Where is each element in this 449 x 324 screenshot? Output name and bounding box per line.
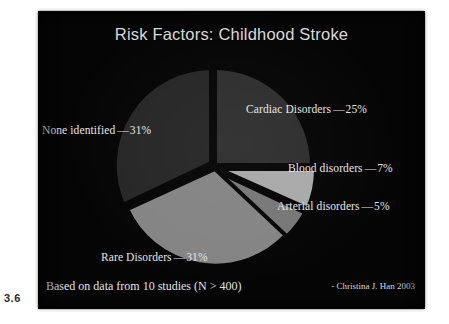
pie-label-cardiac-percent: 25% [346, 103, 367, 115]
pie-label-arterial-name: Arterial disorders [277, 200, 360, 212]
page-title: Risk Factors: Childhood Stroke [38, 25, 425, 44]
pie-label-blood-dash: — [363, 162, 378, 174]
pie-label-none-name: None identified [42, 124, 115, 136]
pie-label-cardiac: Cardiac Disorders—25% [246, 103, 367, 115]
pie-label-none-dash: — [115, 124, 130, 136]
pie-label-rare: Rare Disorders—31% [101, 251, 208, 263]
pie-label-none-percent: 31% [130, 124, 151, 136]
pie-label-cardiac-dash: — [331, 103, 346, 115]
figure-number: 3.6 [4, 292, 21, 304]
pie-label-arterial-percent: 5% [374, 200, 390, 212]
pie-label-blood: Blood disorders—7% [288, 162, 393, 174]
pie-label-rare-dash: — [172, 251, 187, 263]
presentation-slide: Risk Factors: Childhood Stroke Cardiac D… [38, 11, 425, 309]
pie-label-arterial-dash: — [360, 200, 375, 212]
pie-label-none-identified: None identified—31% [42, 124, 151, 136]
footer-source-note: Based on data from 10 studies (N > 400) [46, 279, 241, 294]
pie-label-cardiac-name: Cardiac Disorders [246, 103, 331, 115]
pie-label-blood-name: Blood disorders [288, 162, 363, 174]
footer-credit: - Christina J. Han 2003 [331, 281, 415, 291]
pie-slice-cardiac [215, 68, 312, 165]
slide-footer: Based on data from 10 studies (N > 400) … [38, 279, 425, 295]
pie-label-arterial: Arterial disorders—5% [277, 200, 390, 212]
pie-label-rare-name: Rare Disorders [101, 251, 172, 263]
pie-label-rare-percent: 31% [186, 251, 207, 263]
pie-label-blood-percent: 7% [377, 162, 393, 174]
